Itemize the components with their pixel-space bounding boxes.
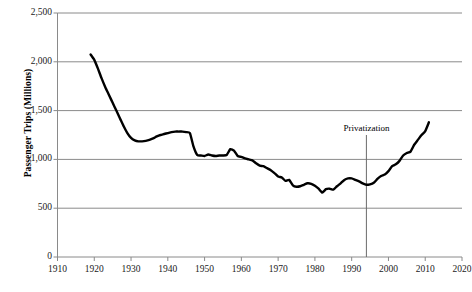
- axis-lines: [58, 13, 463, 257]
- y-tick-label: 1,000: [8, 154, 52, 164]
- axis-ticks: [54, 13, 463, 261]
- chart-figure: Passenger Trips (Millions) 05001,0001,50…: [0, 0, 472, 292]
- y-tick-label: 0: [8, 252, 52, 262]
- gridlines: [58, 13, 463, 208]
- plot-area: [0, 0, 472, 292]
- privatization-annotation-label: Privatization: [343, 123, 389, 133]
- y-tick-label: 2,500: [8, 8, 52, 18]
- x-tick-label: 2020: [439, 265, 472, 275]
- y-tick-label: 500: [8, 203, 52, 213]
- y-tick-label: 1,500: [8, 106, 52, 116]
- y-tick-label: 2,000: [8, 57, 52, 67]
